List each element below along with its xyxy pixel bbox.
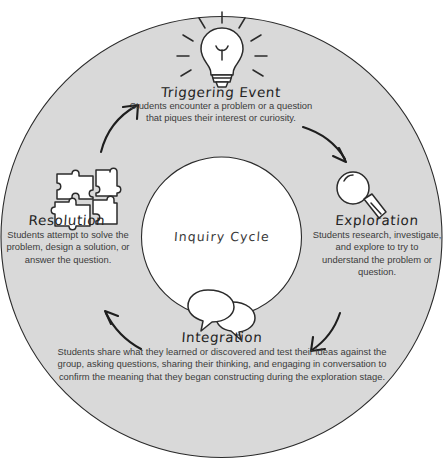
stage-body-integration: Students share what they learned or disc… [55,346,389,383]
stage-heading-resolution: Resolution [2,212,131,228]
stage-heading-integration: Integration [157,329,286,345]
stage-body-resolution: Students attempt to solve the problem, d… [4,229,132,266]
stage-heading-exploration: Exploration [312,212,441,228]
cycle-center-label: Inquiry Cycle [146,229,297,244]
stage-heading-triggering-event: Triggering Event [120,84,321,100]
stage-body-triggering-event: Students encounter a problem or a questi… [126,100,316,125]
inquiry-cycle-diagram: Triggering Event Students encounter a pr… [0,0,443,473]
stage-body-exploration: Students research, investigate, and expl… [312,229,442,279]
